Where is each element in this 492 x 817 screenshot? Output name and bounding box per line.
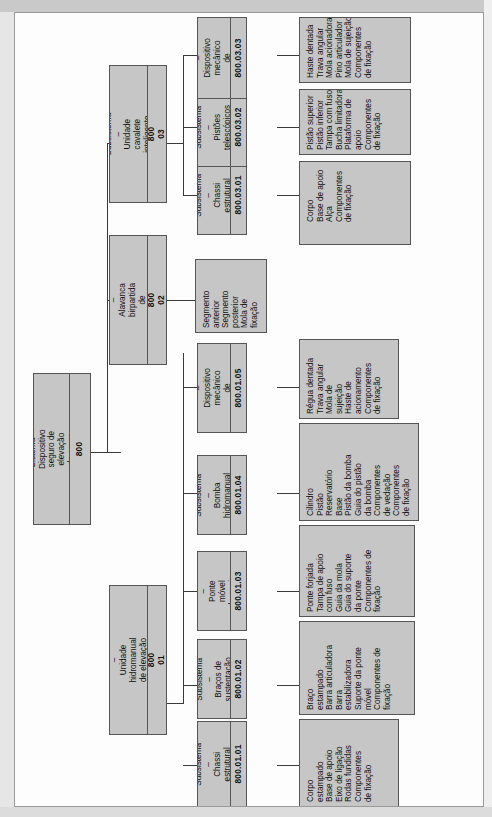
node-root-800-code-cell: 800 xyxy=(69,374,90,524)
node-8000104-title-cell: Subsistema – Bomba hidromanual xyxy=(198,456,230,534)
connector-root-stub xyxy=(91,452,107,453)
node-8000103-title-cell: Subsistema – Ponte móvel de apoio xyxy=(198,552,230,630)
node-8000101-code: 800.01.01 xyxy=(233,744,243,783)
node-8000104-title: Subsistema – Bomba hidromanual xyxy=(198,472,230,517)
connector-030302-to-parts xyxy=(277,127,299,128)
node-8000303-title-cell: Subsistema – Dispositivo mecânico de tra… xyxy=(198,18,230,98)
partslist-8000303-text: Haste dentada Trava angular Mola acionad… xyxy=(306,17,373,78)
node-root-800-title-cell: Sistema – Dispositivo seguro de elevação… xyxy=(34,374,69,524)
node-8000302-code-cell: 800.03.02 xyxy=(230,88,246,166)
connector-80003-to-030303 xyxy=(183,55,197,56)
node-8000302-title: Subsistema – Pistões telescópicos xyxy=(198,104,230,149)
node-80001[interactable]: Subsistema – Unidade hidromanual de elev… xyxy=(109,585,167,735)
partslist-8000102-text: Braço estampado Barra articuladora Barra… xyxy=(306,628,392,710)
partslist-8000103[interactable]: Ponte forjada Tampa de apoio com fuso Gu… xyxy=(299,525,415,617)
scan-edge-top xyxy=(0,0,492,12)
node-8000303-code: 800.03.03 xyxy=(233,38,243,77)
node-8000302[interactable]: Subsistema – Pistões telescópicos 800.03… xyxy=(197,87,247,167)
connector-root-spine xyxy=(107,143,108,453)
node-8000101-title: Subsistema – Chassi estrutural xyxy=(198,743,230,786)
node-80002-code: 800 02 xyxy=(147,291,166,309)
screenshot-page: Sistema – Dispositivo seguro de elevação… xyxy=(0,0,492,817)
node-8000102-title-cell: Subsistema – Braços de sustentação xyxy=(198,640,230,718)
node-8000102-code: 800.01.02 xyxy=(233,659,243,698)
node-8000102-code-cell: 800.01.02 xyxy=(230,640,246,718)
node-8000301-title: Subsistema – Chassi estrutural xyxy=(198,174,230,217)
connector-030301-to-parts xyxy=(277,195,299,196)
connector-010103-to-parts xyxy=(277,591,299,592)
node-8000301-code-cell: 800.03.01 xyxy=(230,156,246,234)
partslist-8000101[interactable]: Corpo estampado Base de apoio Eixo de li… xyxy=(299,719,399,807)
node-80002[interactable]: Subsistema – Alavanca birpartida de acio… xyxy=(109,235,167,365)
scan-edge-right xyxy=(484,0,492,817)
node-8000102-title: Subsistema – Braços de sustentação xyxy=(198,657,230,701)
node-8000103-code: 800.01.03 xyxy=(233,571,243,610)
node-8000104-code-cell: 800.01.04 xyxy=(230,456,246,534)
node-8000102[interactable]: Subsistema – Braços de sustentação 800.0… xyxy=(197,639,247,719)
scan-edge-left xyxy=(0,0,14,817)
partslist-80002-text: Segmento anterior Segmento posterior Mol… xyxy=(202,266,260,328)
node-80003-title-cell: Subsistema – Unidade cavalete inteligent… xyxy=(110,66,147,202)
connector-030303-to-parts xyxy=(277,55,299,56)
partslist-8000302[interactable]: Pistão superior Pistão inferior Tampa co… xyxy=(299,89,411,155)
diagram-sheet: Sistema – Dispositivo seguro de elevação… xyxy=(14,12,484,807)
partslist-8000104[interactable]: Cilindro Pistão Reservatório Base Pistão… xyxy=(299,423,419,521)
node-80002-code-cell: 800 02 xyxy=(147,236,166,364)
node-8000303-code-cell: 800.03.03 xyxy=(230,18,246,98)
node-8000303-title: Subsistema – Dispositivo mecânico de tra… xyxy=(198,37,230,80)
connector-80001-to-010104 xyxy=(183,493,197,494)
node-8000101-title-cell: Subsistema – Chassi estrutural xyxy=(198,722,230,806)
partslist-8000105[interactable]: Régua dentada Trava angular Mola de suje… xyxy=(299,339,399,419)
connector-80002-to-parts xyxy=(167,300,195,301)
node-8000105-code: 800.01.05 xyxy=(233,368,243,407)
node-80002-title-cell: Subsistema – Alavanca birpartida de acio… xyxy=(110,236,147,364)
partslist-8000101-text: Corpo estampado Base de apoio Eixo de li… xyxy=(306,726,373,802)
node-80002-title: Subsistema – Alavanca birpartida de acio… xyxy=(110,277,147,324)
node-80003[interactable]: Subsistema – Unidade cavalete inteligent… xyxy=(109,65,167,203)
scan-edge-bottom xyxy=(0,807,492,817)
node-80001-code-cell: 800 01 xyxy=(147,586,166,734)
partslist-8000105-text: Régua dentada Trava angular Mola de suje… xyxy=(306,344,383,414)
connector-80003-stub xyxy=(167,143,183,144)
connector-80001-to-010101 xyxy=(183,765,197,766)
node-8000104-code: 800.01.04 xyxy=(233,475,243,514)
partslist-8000301[interactable]: Corpo Base de apoio Alça Componentes de … xyxy=(299,161,411,245)
node-8000301[interactable]: Subsistema – Chassi estrutural 800.03.01 xyxy=(197,155,247,235)
partslist-8000302-text: Pistão superior Pistão inferior Tampa co… xyxy=(306,89,383,150)
node-8000105-title-cell: Subsistema – Dispositivo mecânico de tra… xyxy=(198,344,230,432)
node-8000301-title-cell: Subsistema – Chassi estrutural xyxy=(198,156,230,234)
node-8000101[interactable]: Subsistema – Chassi estrutural 800.01.01 xyxy=(197,721,247,807)
connector-80003-to-030302 xyxy=(183,127,197,128)
connector-root-to-80001 xyxy=(107,452,121,453)
node-8000301-code: 800.03.01 xyxy=(233,175,243,214)
connector-010105-to-parts xyxy=(277,387,299,388)
node-8000303[interactable]: Subsistema – Dispositivo mecânico de tra… xyxy=(197,17,247,99)
node-8000103-code-cell: 800.01.03 xyxy=(230,552,246,630)
connector-010101-to-parts xyxy=(277,765,299,766)
partslist-8000102[interactable]: Braço estampado Barra articuladora Barra… xyxy=(299,621,415,715)
node-8000105-title: Subsistema – Dispositivo mecânico de tra… xyxy=(198,367,230,410)
connector-010102-to-parts xyxy=(277,685,299,686)
connector-80001-to-010102 xyxy=(183,685,197,686)
connector-80003-spine xyxy=(183,55,184,195)
node-8000302-code: 800.03.02 xyxy=(233,107,243,146)
node-80003-code-cell: 800 03 xyxy=(147,66,166,202)
node-80001-code: 800 01 xyxy=(147,651,166,669)
node-8000302-title-cell: Subsistema – Pistões telescópicos xyxy=(198,88,230,166)
node-80003-code: 800 03 xyxy=(147,125,166,143)
connector-010104-to-parts xyxy=(277,493,299,494)
node-8000104[interactable]: Subsistema – Bomba hidromanual 800.01.04 xyxy=(197,455,247,535)
node-8000105[interactable]: Subsistema – Dispositivo mecânico de tra… xyxy=(197,343,247,433)
node-root-800-code: 800 xyxy=(75,439,85,459)
partslist-80002[interactable]: Segmento anterior Segmento posterior Mol… xyxy=(195,259,267,333)
partslist-8000303[interactable]: Haste dentada Trava angular Mola acionad… xyxy=(299,17,411,83)
node-8000103-title: Subsistema – Ponte móvel de apoio xyxy=(198,570,230,613)
connector-80001-stub xyxy=(167,703,183,704)
node-8000103[interactable]: Subsistema – Ponte móvel de apoio 800.01… xyxy=(197,551,247,631)
node-root-800[interactable]: Sistema – Dispositivo seguro de elevação… xyxy=(33,373,91,525)
connector-80001-to-010105 xyxy=(183,387,197,388)
node-80001-title-cell: Subsistema – Unidade hidromanual de elev… xyxy=(110,586,147,734)
node-root-800-title: Sistema – Dispositivo seguro de elevação… xyxy=(34,429,69,469)
partslist-8000301-text: Corpo Base de apoio Alça Componentes de … xyxy=(306,161,354,222)
node-80003-title: Subsistema – Unidade cavalete inteligent… xyxy=(110,113,147,156)
